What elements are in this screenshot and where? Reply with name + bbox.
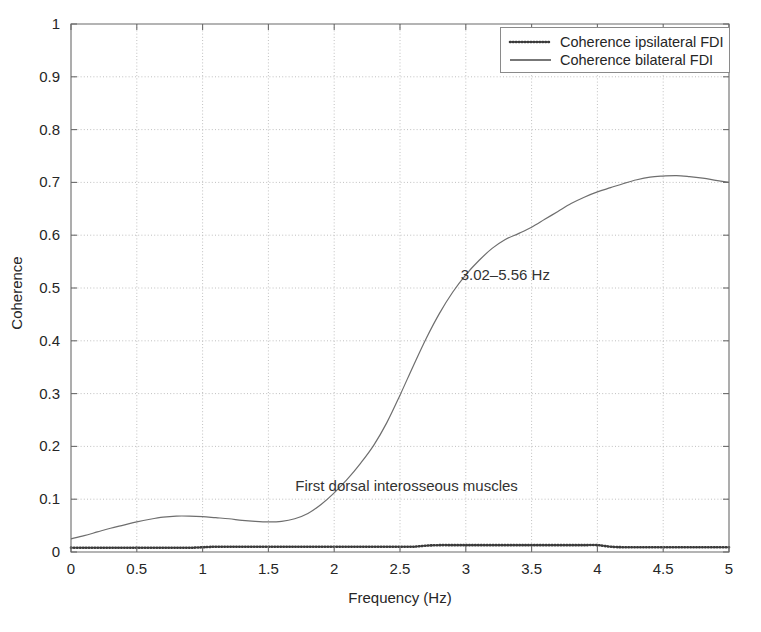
y-tick-label: 0.2: [39, 437, 60, 454]
y-tick-label: 0.4: [39, 332, 60, 349]
y-axis-title: Coherence: [8, 256, 25, 329]
y-tick-label: 0: [52, 543, 60, 560]
chart-annotation-label: 3.02–5.56 Hz: [461, 266, 550, 283]
x-tick-label: 0: [67, 560, 75, 577]
y-tick-label: 1: [52, 15, 60, 32]
legend-label-ipsilateral: Coherence ipsilateral FDI: [560, 34, 724, 50]
x-tick-label: 4: [593, 560, 601, 577]
x-tick-label: 1.5: [258, 560, 279, 577]
x-tick-label: 2: [330, 560, 338, 577]
x-tick-label: 2.5: [390, 560, 411, 577]
y-axis-tick-labels: 00.10.20.30.40.50.60.70.80.91: [39, 15, 60, 560]
x-tick-label: 3.5: [521, 560, 542, 577]
x-tick-label: 0.5: [126, 560, 147, 577]
x-tick-label: 4.5: [653, 560, 674, 577]
x-tick-label: 1: [198, 560, 206, 577]
legend-label-bilateral: Coherence bilateral FDI: [560, 52, 713, 68]
coherence-line-chart: 00.511.522.533.544.55 00.10.20.30.40.50.…: [0, 0, 761, 632]
y-tick-label: 0.8: [39, 121, 60, 138]
chart-legend: Coherence ipsilateral FDI Coherence bila…: [501, 28, 730, 73]
chart-annotations: 3.02–5.56 HzFirst dorsal interosseous mu…: [295, 266, 550, 494]
x-tick-label: 5: [725, 560, 733, 577]
y-tick-label: 0.3: [39, 385, 60, 402]
y-tick-label: 0.9: [39, 68, 60, 85]
y-tick-label: 0.5: [39, 279, 60, 296]
x-axis-title: Frequency (Hz): [348, 589, 451, 606]
y-tick-label: 0.6: [39, 226, 60, 243]
grid-lines: [71, 24, 729, 552]
x-axis-tick-labels: 00.511.522.533.544.55: [67, 560, 733, 577]
x-tick-label: 3: [462, 560, 470, 577]
figure-container: 00.511.522.533.544.55 00.10.20.30.40.50.…: [0, 0, 761, 632]
y-tick-label: 0.1: [39, 490, 60, 507]
chart-annotation-label: First dorsal interosseous muscles: [295, 477, 518, 494]
y-tick-label: 0.7: [39, 173, 60, 190]
